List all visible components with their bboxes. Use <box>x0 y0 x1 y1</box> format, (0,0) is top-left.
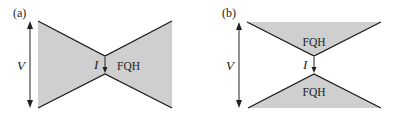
panel-b-fqh-top-label: FQH <box>302 36 325 48</box>
panel-b-voltage-label: V <box>226 58 236 73</box>
panel-a: (a) V I FQH <box>13 6 172 108</box>
panel-b-fqh-bottom-label: FQH <box>302 86 325 98</box>
panel-b-label: (b) <box>222 6 236 20</box>
panel-a-current-label: I <box>93 57 99 72</box>
diagram-canvas: (a) V I FQH (b) V FQH <box>0 0 395 116</box>
voltage-arrow-icon <box>236 22 242 108</box>
voltage-arrow-icon <box>27 21 33 108</box>
panel-b: (b) V FQH FQH I <box>222 6 381 108</box>
current-arrow-icon <box>312 57 317 73</box>
panel-a-fqh-label: FQH <box>117 60 140 72</box>
panel-b-current-label: I <box>302 57 308 72</box>
panel-a-voltage-label: V <box>17 58 27 73</box>
panel-a-label: (a) <box>13 6 26 20</box>
